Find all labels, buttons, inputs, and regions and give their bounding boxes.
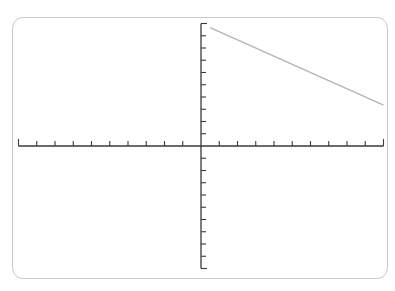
- coordinate-plane: [0, 0, 395, 291]
- data-line: [210, 28, 383, 106]
